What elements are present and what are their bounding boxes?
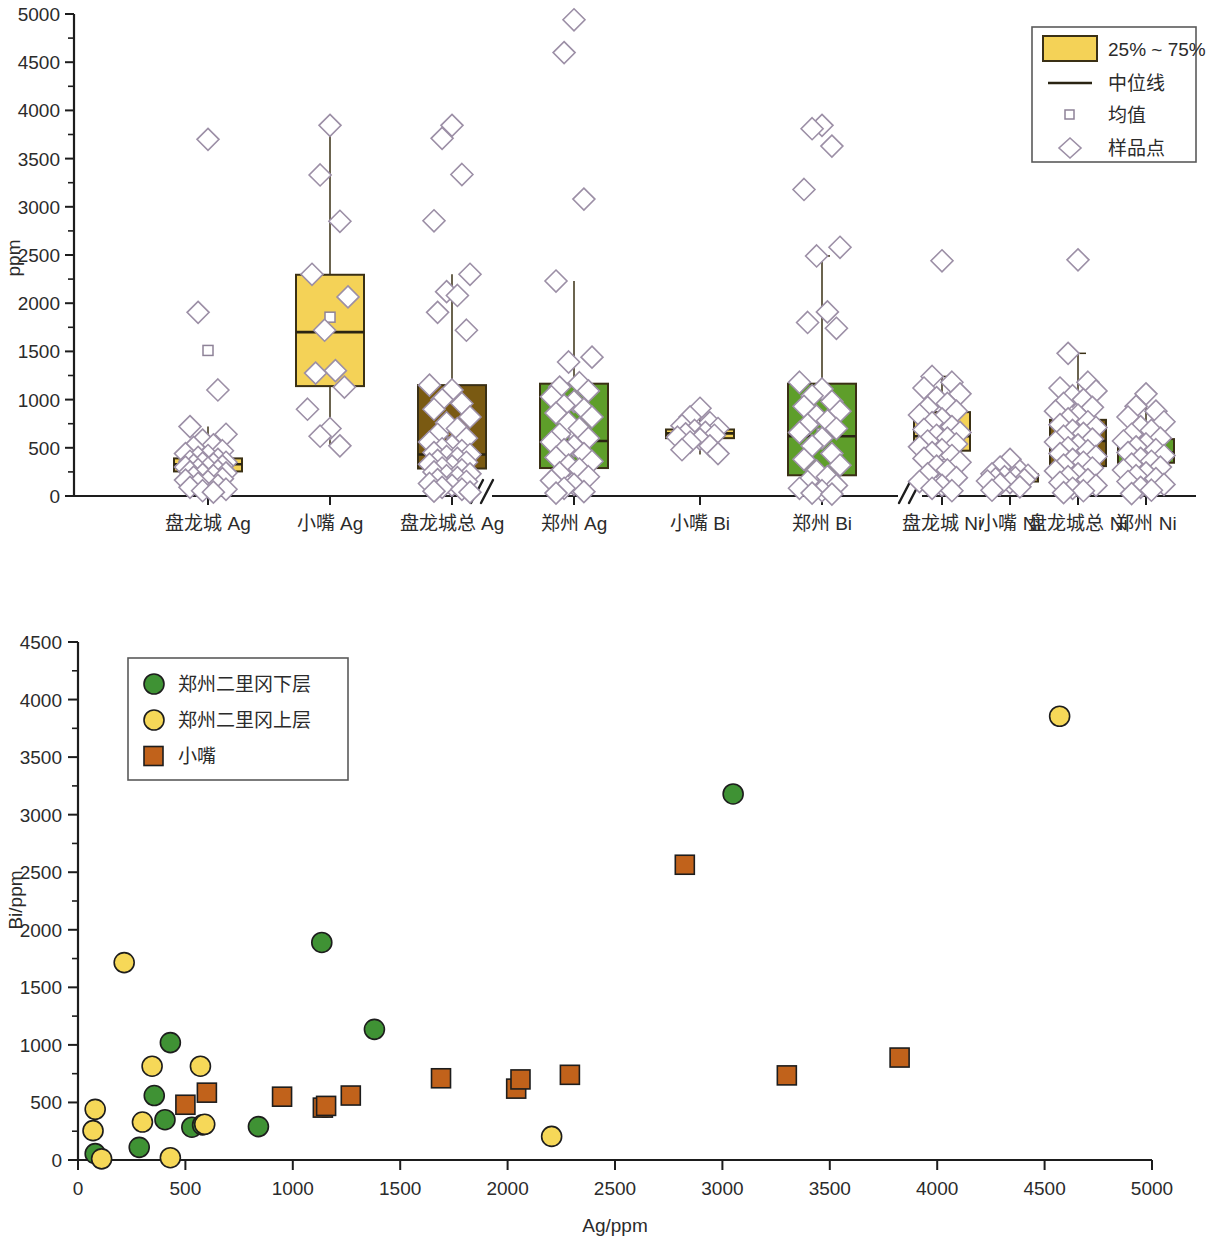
sample-point [563, 9, 585, 31]
y-tick-label: 4500 [18, 52, 60, 73]
y-tick-label: 2500 [18, 245, 60, 266]
scatter-x-tick-label: 4500 [1023, 1178, 1065, 1199]
scatter-point [312, 932, 332, 952]
y-tick-3000: 3000 [18, 183, 74, 218]
y-tick-500: 500 [28, 424, 74, 459]
x-tick-label: 郑州 Bi [792, 513, 852, 534]
boxplot-group-郑州 Ni [1113, 383, 1176, 505]
y-tick-label: 5000 [18, 4, 60, 25]
sample-point [573, 188, 595, 210]
y-tick-label: 0 [49, 486, 60, 507]
legend-marker-1 [144, 710, 164, 730]
scatter-y-tick-2000: 2000 [20, 901, 78, 941]
scatter-y-tick-3500: 3500 [20, 728, 78, 768]
legend-label-1: 郑州二里冈上层 [178, 710, 311, 731]
sample-point [797, 311, 819, 333]
sample-points [1113, 383, 1176, 505]
sample-point [455, 319, 477, 341]
scatter-y-tick-label: 4000 [20, 690, 62, 711]
x-tick-label: 郑州 Ag [541, 513, 608, 534]
legend-label-iqr: 25% ~ 75% [1108, 39, 1206, 60]
scatter-point [560, 1065, 579, 1084]
sample-point [309, 164, 331, 186]
y-tick-2000: 2000 [18, 279, 74, 314]
sample-point [806, 245, 828, 267]
scatter-x-tick-label: 500 [170, 1178, 202, 1199]
x-tick-label: 盘龙城 Ni [902, 513, 982, 534]
sample-point [207, 379, 229, 401]
scatter-y-tick-label: 4500 [20, 632, 62, 653]
legend-label-sample: 样品点 [1108, 138, 1165, 159]
scatter-x-tick-label: 3500 [809, 1178, 851, 1199]
boxplot-group-盘龙城 Ni [909, 250, 972, 502]
scatter-point [675, 855, 694, 874]
scatter-x-tick-5000: 5000 [1131, 1160, 1173, 1199]
boxplot-y-axis-title: ppm [3, 240, 24, 277]
scatter-point [511, 1070, 530, 1089]
sample-point [329, 210, 351, 232]
scatter-x-tick-2500: 2500 [594, 1160, 636, 1199]
scatter-y-tick-4000: 4000 [20, 671, 78, 711]
boxplot-group-盘龙城总 Ag [418, 114, 486, 503]
scatter-point [197, 1083, 216, 1102]
sample-points [667, 397, 730, 464]
x-category-郑州 Ni: 郑州 Ni [1115, 496, 1176, 534]
scatter-x-tick-4000: 4000 [916, 1160, 958, 1199]
scatter-x-tick-4500: 4500 [1023, 1160, 1065, 1199]
sample-point [297, 398, 319, 420]
y-tick-1000: 1000 [18, 376, 74, 411]
sample-point [1067, 249, 1089, 271]
scatter-y-tick-2500: 2500 [20, 843, 78, 883]
y-tick-label: 3500 [18, 149, 60, 170]
scatter-y-tick-label: 2000 [20, 920, 62, 941]
sample-point [793, 178, 815, 200]
scatter-y-tick-0: 0 [51, 1131, 78, 1171]
scatter-point [364, 1019, 384, 1039]
y-tick-4000: 4000 [18, 86, 74, 121]
boxplot-group-郑州 Ag [540, 9, 608, 504]
x-category-小嘴 Bi: 小嘴 Bi [670, 496, 730, 534]
scatter-point [176, 1095, 195, 1114]
sample-points [977, 448, 1040, 501]
scatter-x-tick-label: 4000 [916, 1178, 958, 1199]
scatter-x-tick-3000: 3000 [701, 1160, 743, 1199]
scatter-x-tick-1000: 1000 [272, 1160, 314, 1199]
scatter-series-2 [176, 855, 909, 1117]
scatter-y-axis-title: Bi/ppm [5, 870, 26, 929]
sample-point [1057, 342, 1079, 364]
scatter-y-tick-label: 0 [51, 1150, 62, 1171]
scatter-x-tick-label: 3000 [701, 1178, 743, 1199]
scatter-point [129, 1137, 149, 1157]
scatter-x-tick-label: 2000 [486, 1178, 528, 1199]
boxplot-group-小嘴 Ni [977, 448, 1040, 501]
scatter-x-tick-3500: 3500 [809, 1160, 851, 1199]
scatter-point [144, 1086, 164, 1106]
scatter-x-tick-1500: 1500 [379, 1160, 421, 1199]
scatter-x-tick-label: 2500 [594, 1178, 636, 1199]
scatter-y-tick-label: 1500 [20, 977, 62, 998]
boxplot-panel: 0500100015002000250030003500400045005000… [0, 0, 1208, 590]
y-tick-label: 500 [28, 438, 60, 459]
y-tick-2500: 2500 [18, 231, 74, 266]
scatter-point [341, 1086, 360, 1105]
scatter-point [777, 1066, 796, 1085]
sample-point [187, 301, 209, 323]
boxplot-group-盘龙城总 Ni [1045, 249, 1108, 504]
sample-point [197, 128, 219, 150]
scatter-y-tick-500: 500 [30, 1074, 78, 1114]
scatter-y-tick-label: 2500 [20, 862, 62, 883]
x-tick-label: 小嘴 Ag [297, 513, 364, 534]
scatter-point [890, 1048, 909, 1067]
y-tick-0: 0 [49, 472, 74, 507]
scatter-point [723, 784, 743, 804]
sample-point [427, 301, 449, 323]
scatter-point [160, 1033, 180, 1053]
mean-marker [203, 345, 213, 355]
x-category-盘龙城总 Ni: 盘龙城总 Ni [1028, 496, 1127, 534]
scatter-point [114, 953, 134, 973]
scatter-point [273, 1087, 292, 1106]
sample-point [423, 210, 445, 232]
scatter-point [85, 1099, 105, 1119]
sample-point [829, 236, 851, 258]
y-tick-1500: 1500 [18, 327, 74, 362]
